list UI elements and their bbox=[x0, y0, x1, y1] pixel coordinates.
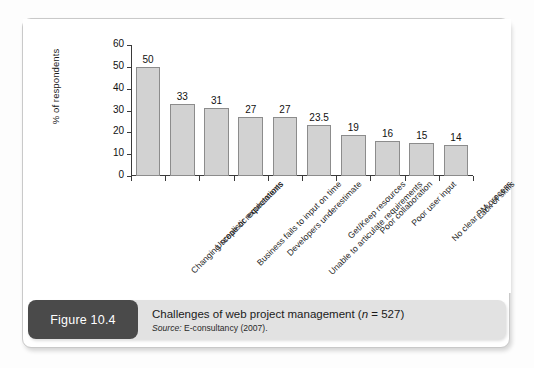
bar-slot: 16 bbox=[370, 45, 404, 176]
y-axis-title: % of respondents bbox=[50, 17, 61, 157]
bar-slot: 50 bbox=[131, 45, 165, 176]
bar-slot: 27 bbox=[234, 45, 268, 176]
bar-value-label: 31 bbox=[199, 95, 233, 106]
caption-bar: Figure 10.4 Challenges of web project ma… bbox=[28, 300, 506, 339]
bar-slot: 31 bbox=[199, 45, 233, 176]
caption-text-block: Challenges of web project management (n … bbox=[152, 307, 497, 334]
bar-series: 503331272723.519161514 bbox=[131, 45, 473, 176]
y-tick-label: 40 bbox=[113, 82, 124, 93]
x-category-label: Lack of skills bbox=[474, 179, 516, 221]
caption-title-pre: Challenges of web project management ( bbox=[152, 308, 362, 320]
caption-title: Challenges of web project management (n … bbox=[152, 307, 497, 321]
source-label: Source: bbox=[152, 323, 182, 333]
bar-slot: 23.5 bbox=[302, 45, 336, 176]
bar-value-label: 16 bbox=[370, 128, 404, 139]
bar[interactable] bbox=[409, 143, 434, 176]
bar[interactable] bbox=[444, 145, 469, 176]
bar-slot: 14 bbox=[439, 45, 473, 176]
y-tick-label: 30 bbox=[113, 104, 124, 115]
bar-value-label: 19 bbox=[336, 122, 370, 133]
y-tick-label: 0 bbox=[118, 169, 124, 180]
bar[interactable] bbox=[341, 135, 366, 176]
bar-value-label: 33 bbox=[165, 91, 199, 102]
bar-value-label: 15 bbox=[405, 130, 439, 141]
bar[interactable] bbox=[204, 108, 229, 176]
chart-area: % of respondents 0102030405060 503331272… bbox=[23, 19, 511, 293]
y-tick-label: 10 bbox=[113, 147, 124, 158]
bar-slot: 15 bbox=[405, 45, 439, 176]
bar[interactable] bbox=[170, 104, 195, 176]
bar[interactable] bbox=[307, 125, 332, 176]
bar-value-label: 50 bbox=[131, 54, 165, 65]
source-value: E-consultancy (2007). bbox=[182, 323, 268, 333]
bar[interactable] bbox=[238, 117, 263, 176]
plot-region: 0102030405060 503331272723.519161514 bbox=[131, 45, 473, 176]
bar-value-label: 27 bbox=[234, 104, 268, 115]
bar[interactable] bbox=[136, 67, 161, 176]
caption-title-post: = 527) bbox=[368, 308, 404, 320]
bar-value-label: 23.5 bbox=[302, 112, 336, 123]
bar[interactable] bbox=[375, 141, 400, 176]
y-tick-label: 50 bbox=[113, 60, 124, 71]
bar-value-label: 14 bbox=[439, 132, 473, 143]
y-tick-label: 20 bbox=[113, 125, 124, 136]
caption-source: Source: E-consultancy (2007). bbox=[152, 322, 497, 334]
figure-number-badge: Figure 10.4 bbox=[28, 300, 138, 339]
bar[interactable] bbox=[273, 117, 298, 176]
y-tick-label: 60 bbox=[113, 38, 124, 49]
bar-slot: 27 bbox=[268, 45, 302, 176]
x-axis-category-labels: Changing scope or requirementsUnrealisti… bbox=[131, 179, 511, 299]
bar-value-label: 27 bbox=[268, 104, 302, 115]
bar-slot: 33 bbox=[165, 45, 199, 176]
figure-panel: % of respondents 0102030405060 503331272… bbox=[22, 18, 510, 348]
figure-root: % of respondents 0102030405060 503331272… bbox=[0, 0, 534, 368]
bar-slot: 19 bbox=[336, 45, 370, 176]
